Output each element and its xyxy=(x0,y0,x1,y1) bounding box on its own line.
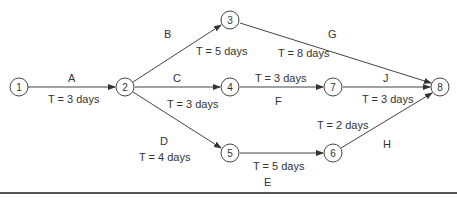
node-7-label: 7 xyxy=(330,82,336,93)
node-1-label: 1 xyxy=(16,82,22,93)
activity-j-name: J xyxy=(383,72,389,84)
node-6-label: 6 xyxy=(330,148,336,159)
activity-c-duration: T = 3 days xyxy=(167,98,218,110)
activity-h-name: H xyxy=(383,138,391,150)
activity-d-duration: T = 4 days xyxy=(139,151,190,163)
activity-h-duration: T = 2 days xyxy=(317,119,368,131)
activity-e-duration: T = 5 days xyxy=(253,160,304,172)
node-4-label: 4 xyxy=(227,82,233,93)
activity-a-duration: T = 3 days xyxy=(48,93,99,105)
activity-g-name: G xyxy=(328,28,337,40)
activity-d-name: D xyxy=(160,135,168,147)
node-3-label: 3 xyxy=(227,15,233,26)
activity-f-name: F xyxy=(275,95,282,107)
activity-c-name: C xyxy=(173,72,181,84)
node-5-label: 5 xyxy=(227,148,233,159)
activity-j-duration: T = 3 days xyxy=(362,93,413,105)
bottom-divider xyxy=(0,192,457,194)
activity-e-name: E xyxy=(264,176,271,188)
activity-b-duration: T = 5 days xyxy=(196,45,247,57)
activity-a-name: A xyxy=(68,72,75,84)
activity-b-name: B xyxy=(164,28,171,40)
node-2-label: 2 xyxy=(122,82,128,93)
node-8-label: 8 xyxy=(437,82,443,93)
activity-g-duration: T = 8 days xyxy=(278,47,329,59)
activity-f-duration: T = 3 days xyxy=(255,72,306,84)
